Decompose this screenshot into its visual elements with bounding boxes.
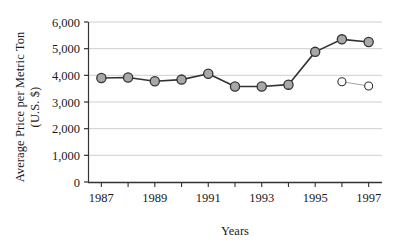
plot-area: 01,0002,0003,0004,0005,0006,000 19871989… xyxy=(0,0,398,249)
y-tick-label: 0 xyxy=(74,176,80,190)
price-per-metric-ton-line-chart: Average Price per Metric Ton (U.S. $) 01… xyxy=(0,0,398,249)
series-line xyxy=(101,39,368,86)
data-point-marker xyxy=(365,82,373,90)
y-tick-label: 3,000 xyxy=(52,96,80,110)
data-point-marker xyxy=(204,69,213,78)
x-tick-label: 1997 xyxy=(356,191,381,205)
data-point-marker xyxy=(150,77,159,86)
x-tick-label: 1991 xyxy=(196,191,221,205)
y-tick-label: 2,000 xyxy=(52,122,80,136)
y-tick-label: 1,000 xyxy=(52,149,80,163)
data-point-marker xyxy=(337,35,346,44)
y-tick-label: 6,000 xyxy=(52,16,80,30)
y-tick-labels-group: 01,0002,0003,0004,0005,0006,000 xyxy=(52,16,80,190)
data-point-marker xyxy=(311,47,320,56)
y-tick-label: 5,000 xyxy=(52,42,80,56)
data-point-marker xyxy=(230,82,239,91)
x-tick-label: 1987 xyxy=(89,191,114,205)
x-axis-title: Years xyxy=(88,224,382,239)
data-point-marker xyxy=(97,73,106,82)
data-point-marker xyxy=(284,80,293,89)
data-point-marker xyxy=(364,37,373,46)
series-markers-group xyxy=(97,35,373,91)
series-lines-group xyxy=(101,39,368,86)
y-tick-label: 4,000 xyxy=(52,69,80,83)
data-point-marker xyxy=(338,78,346,86)
data-point-marker xyxy=(177,75,186,84)
data-point-marker xyxy=(123,73,132,82)
y-tick-marks-group xyxy=(84,22,88,182)
data-point-marker xyxy=(257,82,266,91)
x-tick-label: 1995 xyxy=(303,191,328,205)
x-tick-labels-group: 198719891991199319951997 xyxy=(89,191,381,205)
x-tick-label: 1993 xyxy=(249,191,274,205)
x-tick-label: 1989 xyxy=(142,191,167,205)
